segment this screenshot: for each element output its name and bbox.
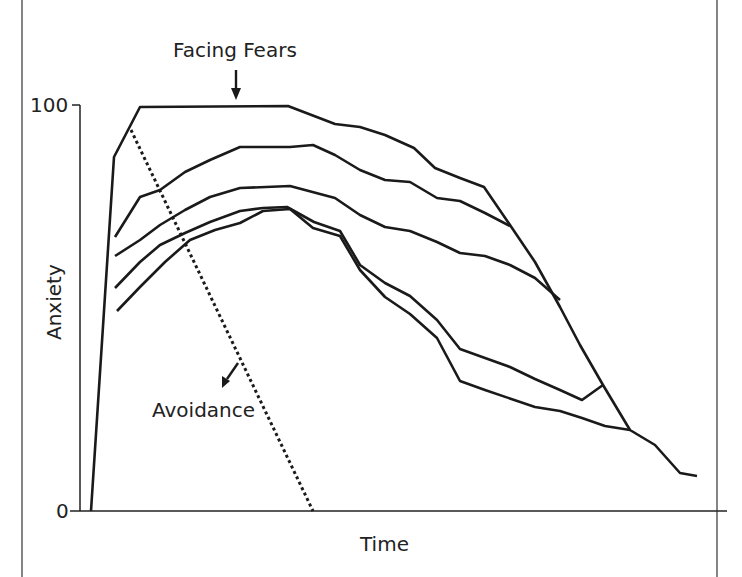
y-axis-label: Anxiety <box>42 264 66 340</box>
facing-fears-label: Facing Fears <box>173 38 297 62</box>
avoidance-arrow <box>222 363 238 388</box>
chart-frame: Facing Fears Avoidance 100 0 Anxiety Tim… <box>0 0 742 577</box>
x-axis-label: Time <box>360 532 409 556</box>
exposure-curve-5 <box>117 209 630 430</box>
exposure-curve-4 <box>115 207 603 400</box>
y-tick-label-0: 0 <box>56 499 69 523</box>
exposure-curve-3 <box>115 186 560 300</box>
facing-fears-arrow <box>231 70 241 100</box>
chart-canvas <box>0 0 742 577</box>
y-tick-label-100: 100 <box>30 93 68 117</box>
avoidance-label: Avoidance <box>152 398 255 422</box>
facing-fears-curve <box>91 106 697 511</box>
